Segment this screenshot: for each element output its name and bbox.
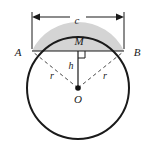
label-point-b: B xyxy=(134,46,141,58)
arrow-right-icon xyxy=(116,14,124,21)
center-point-dot-icon xyxy=(75,85,81,91)
label-chord-dimension: c xyxy=(75,14,80,26)
label-radius-right: r xyxy=(103,70,107,81)
label-radius-left: r xyxy=(50,70,54,81)
label-segment-area: M xyxy=(73,35,84,47)
label-point-a: A xyxy=(14,46,22,58)
right-angle-marker-icon xyxy=(78,51,85,58)
circular-segment-figure: c A B M h r r O xyxy=(0,0,152,161)
label-height: h xyxy=(69,60,74,71)
arrow-left-icon xyxy=(32,14,40,21)
geometry-canvas: c A B M h r r O xyxy=(0,0,152,161)
label-center: O xyxy=(74,93,82,105)
